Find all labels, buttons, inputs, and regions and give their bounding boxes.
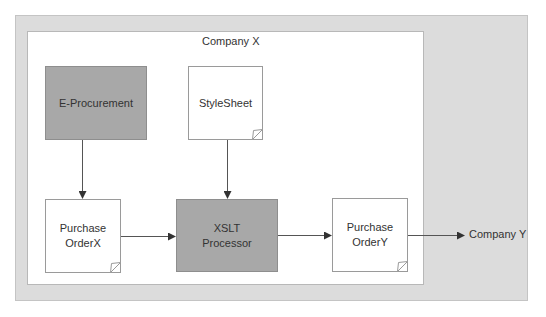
purchase-order-y-line2: OrderY xyxy=(352,235,387,250)
xslt-processor-node[interactable]: XSLT Processor xyxy=(176,199,278,272)
e-procurement-node[interactable]: E-Procurement xyxy=(45,66,147,140)
stylesheet-label: StyleSheet xyxy=(199,96,252,111)
xslt-processor-line2: Processor xyxy=(202,236,252,251)
purchase-order-y-node[interactable]: Purchase OrderY xyxy=(332,198,408,272)
e-procurement-label: E-Procurement xyxy=(59,96,133,111)
company-y-label: Company Y xyxy=(469,228,526,240)
xslt-processor-line1: XSLT xyxy=(214,221,241,236)
purchase-order-y-line1: Purchase xyxy=(347,220,393,235)
purchase-order-x-line2: OrderX xyxy=(65,236,100,251)
stylesheet-node[interactable]: StyleSheet xyxy=(188,66,263,140)
purchase-order-x-line1: Purchase xyxy=(60,221,106,236)
purchase-order-x-node[interactable]: Purchase OrderX xyxy=(45,199,121,273)
company-x-label: Company X xyxy=(202,35,259,47)
